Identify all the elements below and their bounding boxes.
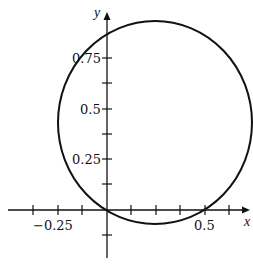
y-tick-label-0.5: 0.5 bbox=[80, 102, 101, 117]
y-axis-label: y bbox=[92, 5, 101, 20]
diagram-canvas: −0.25 0.5 0.25 0.5 0.75 x y bbox=[0, 0, 253, 265]
x-tick-label-neg-0.25: −0.25 bbox=[33, 218, 73, 233]
x-tick-label-0.5: 0.5 bbox=[194, 218, 215, 233]
x-axis-label: x bbox=[243, 214, 251, 229]
y-tick-label-0.25: 0.25 bbox=[72, 152, 101, 167]
y-tick-label-0.75: 0.75 bbox=[72, 51, 101, 66]
x-axis-arrow-icon bbox=[242, 207, 250, 214]
y-axis-arrow-icon bbox=[104, 12, 111, 20]
